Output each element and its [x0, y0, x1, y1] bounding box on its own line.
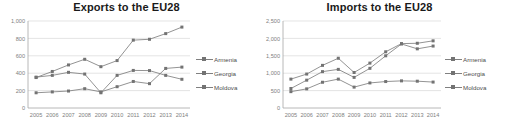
legend-marker-georgia-icon	[196, 70, 213, 77]
data-point-marker	[305, 79, 308, 82]
figure-container: Exports to the EU28 02004006008001,00020…	[0, 0, 506, 134]
x-tick-label: 2011	[127, 112, 139, 118]
data-point-marker	[164, 32, 167, 35]
data-point-marker	[67, 71, 70, 74]
legend-marker-georgia-icon	[445, 70, 462, 77]
data-point-marker	[164, 67, 167, 70]
x-tick-label: 2011	[380, 112, 392, 118]
x-tick-label: 2005	[30, 112, 42, 118]
x-tick-label: 2005	[285, 112, 297, 118]
series-line-moldova	[36, 67, 182, 93]
data-point-marker	[164, 74, 167, 77]
data-point-marker	[305, 73, 308, 76]
data-point-marker	[400, 42, 403, 45]
data-point-marker	[416, 42, 419, 45]
data-point-marker	[368, 62, 371, 65]
y-tick-label: 0	[22, 105, 25, 111]
data-point-marker	[432, 81, 435, 84]
y-tick-label: 1,000	[266, 70, 280, 76]
x-tick-label: 2008	[78, 112, 90, 118]
legend-item-georgia[interactable]: Georgia	[196, 66, 254, 80]
legend-label-georgia: Georgia	[462, 70, 485, 77]
y-tick-label: 600	[16, 53, 25, 59]
x-tick-label: 2008	[332, 112, 344, 118]
series-line-armenia	[291, 79, 433, 92]
legend-imports: Armenia Georgia Moldova	[445, 52, 503, 94]
data-point-marker	[432, 45, 435, 48]
data-point-marker	[51, 70, 54, 73]
data-point-marker	[51, 74, 54, 77]
data-point-marker	[289, 78, 292, 81]
data-point-marker	[416, 80, 419, 83]
data-point-marker	[116, 74, 119, 77]
data-point-marker	[180, 66, 183, 69]
data-point-marker	[321, 81, 324, 84]
data-point-marker	[384, 80, 387, 83]
x-tick-label: 2006	[300, 112, 312, 118]
legend-label-armenia: Armenia	[213, 56, 237, 63]
data-point-marker	[353, 71, 356, 74]
data-point-marker	[83, 87, 86, 90]
data-point-marker	[368, 67, 371, 70]
data-point-marker	[337, 57, 340, 60]
data-point-marker	[132, 69, 135, 72]
data-point-marker	[99, 65, 102, 68]
y-tick-label: 800	[16, 36, 25, 42]
data-point-marker	[432, 39, 435, 42]
data-point-marker	[51, 90, 54, 93]
legend-label-moldova: Moldova	[462, 84, 486, 91]
data-point-marker	[321, 70, 324, 73]
y-tick-label: 2,500	[266, 18, 280, 24]
data-point-marker	[99, 90, 102, 93]
data-point-marker	[289, 90, 292, 93]
legend-exports: Armenia Georgia Moldova	[196, 52, 254, 94]
x-tick-label: 2010	[364, 112, 376, 118]
y-tick-label: 500	[271, 88, 280, 94]
legend-item-moldova[interactable]: Moldova	[196, 80, 254, 94]
legend-item-georgia[interactable]: Georgia	[445, 66, 503, 80]
x-tick-label: 2007	[316, 112, 328, 118]
y-tick-label: 200	[16, 88, 25, 94]
data-point-marker	[353, 86, 356, 89]
legend-marker-armenia-icon	[196, 56, 213, 63]
legend-item-moldova[interactable]: Moldova	[445, 80, 503, 94]
data-point-marker	[67, 90, 70, 93]
legend-label-georgia: Georgia	[213, 70, 236, 77]
series-line-georgia	[36, 27, 182, 77]
x-tick-label: 2012	[143, 112, 155, 118]
data-point-marker	[384, 54, 387, 57]
data-point-marker	[35, 76, 38, 79]
data-point-marker	[83, 58, 86, 61]
data-point-marker	[353, 76, 356, 79]
y-tick-label: 400	[16, 70, 25, 76]
x-tick-label: 2009	[95, 112, 107, 118]
data-point-marker	[148, 38, 151, 41]
x-tick-label: 2014	[176, 112, 188, 118]
data-point-marker	[337, 68, 340, 71]
legend-item-armenia[interactable]: Armenia	[445, 52, 503, 66]
x-tick-label: 2009	[348, 112, 360, 118]
x-tick-label: 2007	[62, 112, 74, 118]
data-point-marker	[67, 63, 70, 66]
data-point-marker	[368, 81, 371, 84]
legend-item-armenia[interactable]: Armenia	[196, 52, 254, 66]
legend-label-moldova: Moldova	[213, 84, 237, 91]
y-tick-label: 1,500	[266, 53, 280, 59]
data-point-marker	[116, 59, 119, 62]
chart-panel-imports: Imports to the EU28 05001,0001,5002,0002…	[253, 0, 506, 134]
legend-marker-moldova-icon	[445, 84, 462, 91]
data-point-marker	[321, 64, 324, 67]
chart-title-imports: Imports to the EU28	[253, 1, 506, 13]
x-tick-label: 2014	[427, 112, 439, 118]
data-point-marker	[132, 80, 135, 83]
data-point-marker	[132, 39, 135, 42]
x-tick-label: 2006	[46, 112, 58, 118]
data-point-marker	[337, 78, 340, 81]
data-point-marker	[83, 73, 86, 76]
data-point-marker	[116, 85, 119, 88]
y-tick-label: 1,000	[11, 18, 25, 24]
data-point-marker	[148, 82, 151, 85]
data-point-marker	[148, 69, 151, 72]
data-point-marker	[416, 47, 419, 50]
x-tick-label: 2010	[111, 112, 123, 118]
